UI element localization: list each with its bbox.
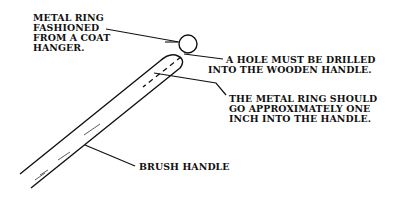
wood-grain-marks (35, 124, 100, 180)
callout-metal-ring: METAL RING FASHIONED FROM A COAT HANGER. (33, 13, 110, 53)
callout-hole: A HOLE MUST BE DRILLED INTO THE WOODEN H… (226, 55, 375, 75)
callout-ring-depth: THE METAL RING SHOULD GO APPROXIMATELY O… (229, 94, 377, 124)
leader-metal-ring (106, 29, 179, 42)
diagram-canvas: METAL RING FASHIONED FROM A COAT HANGER.… (0, 0, 406, 200)
callout-line: INCH INTO THE HANDLE. (229, 114, 377, 124)
callout-line: BRUSH HANDLE (139, 162, 230, 172)
leader-hole (184, 54, 223, 59)
callout-line: INTO THE WOODEN HANDLE. (208, 65, 375, 75)
leader-ring-depth (154, 73, 226, 95)
callout-brush-handle: BRUSH HANDLE (139, 162, 230, 172)
metal-ring-shape (179, 35, 197, 53)
callout-line: HANGER. (33, 43, 110, 53)
leader-brush-handle (85, 145, 135, 166)
